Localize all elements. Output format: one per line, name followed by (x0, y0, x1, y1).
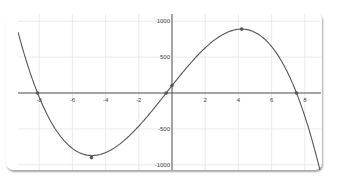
point-maximum-marker[interactable] (240, 27, 244, 31)
x-tick-label: -6 (70, 97, 76, 103)
x-tick-label: 6 (270, 97, 274, 103)
y-tick-label: -500 (158, 126, 171, 132)
point-y-intercept-marker[interactable] (170, 84, 174, 88)
point-root-marker[interactable] (164, 91, 168, 95)
y-tick-label: 500 (160, 54, 171, 60)
x-tick-label: -2 (136, 97, 142, 103)
y-tick-label: 1000 (157, 18, 171, 24)
x-tick-label: 4 (237, 97, 241, 103)
y-tick-label: -1000 (155, 162, 171, 168)
x-tick-label: -4 (103, 97, 109, 103)
function-curve (18, 29, 321, 174)
x-tick-label: 8 (303, 97, 307, 103)
function-graph: -8-6-4-224681000500-500-1000 (0, 0, 342, 182)
point-root-marker[interactable] (36, 91, 40, 95)
point-root-marker[interactable] (295, 91, 299, 95)
point-minimum-marker[interactable] (90, 156, 94, 160)
grid-lines (18, 14, 321, 170)
x-tick-label: 2 (204, 97, 208, 103)
